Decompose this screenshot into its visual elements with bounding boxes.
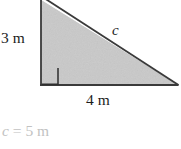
vertical-leg-label: 3 m (1, 30, 25, 46)
hypotenuse-label: c (112, 23, 119, 38)
pythagorean-triangle-figure: 3 m 4 m c c = 5 m (0, 0, 181, 149)
answer-variable: c (2, 122, 9, 139)
answer-value: 5 m (25, 122, 49, 139)
answer-operator: = (13, 122, 22, 139)
answer-text: c = 5 m (2, 123, 49, 139)
horizontal-leg-label: 4 m (86, 92, 110, 108)
